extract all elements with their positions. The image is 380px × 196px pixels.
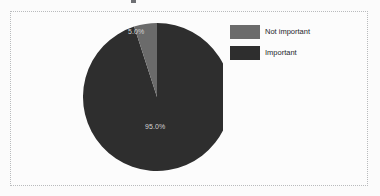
legend-label-important: Important xyxy=(265,46,297,60)
legend-swatch-important xyxy=(230,46,260,60)
legend-label-not-important: Not important xyxy=(265,25,310,39)
chart-legend: Not important Important xyxy=(230,25,360,67)
legend-swatch-not-important xyxy=(230,25,260,39)
chart-frame: 5.0% 95.0% Not important Important xyxy=(10,11,368,186)
pie-chart[interactable] xyxy=(63,12,223,176)
cropped-title-fragment xyxy=(131,0,136,3)
legend-item-not-important[interactable]: Not important xyxy=(230,25,360,39)
legend-item-important[interactable]: Important xyxy=(230,46,360,60)
chart-screenshot: 5.0% 95.0% Not important Important xyxy=(0,0,380,196)
plot-area: 5.0% 95.0% Not important Important xyxy=(11,12,369,187)
